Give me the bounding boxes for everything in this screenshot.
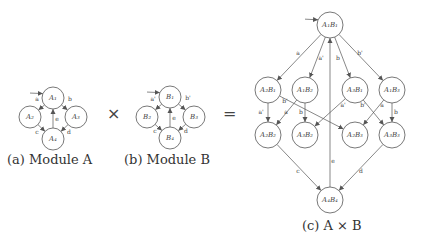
state-node-B1: B₁: [159, 86, 181, 108]
state-label: B₄: [165, 134, 174, 142]
state-node-B4: B₄: [159, 127, 181, 149]
edge-label: b: [299, 108, 303, 115]
edge-label: e: [172, 114, 176, 121]
edge-A2-A4: [38, 125, 45, 132]
edge-label: d: [67, 128, 71, 135]
edge-A1-A3: [61, 105, 67, 110]
initial-state-arrow: [147, 92, 160, 93]
state-node-A2B2: A₂B₂: [255, 122, 281, 148]
state-label: A₁B₁: [321, 21, 338, 29]
edge-label: a': [150, 95, 156, 102]
state-label: A₁: [48, 94, 57, 102]
edge-A1-A2: [38, 105, 44, 110]
state-node-A3B3: A₃B₃: [379, 122, 405, 148]
state-label: A₂B₁: [259, 86, 276, 94]
edge-label: a: [380, 101, 384, 108]
edge-label: a': [340, 101, 346, 108]
edge-B1-B3: [178, 104, 185, 110]
edge-label: b': [282, 97, 288, 104]
edge-label: b: [394, 108, 398, 115]
product-automaton-diagram: A₁A₂A₃A₄B₁B₂B₃B₄A₁B₁A₂B₁A₁B₂A₃B₁A₁B₃A₂B₂…: [0, 0, 427, 240]
edge-label: b': [185, 94, 191, 101]
state-label: A₄: [48, 135, 57, 143]
edge-label: e: [331, 157, 335, 164]
edge-A1B1-A2B1: [277, 34, 321, 80]
state-label: A₃B₂: [296, 131, 313, 139]
state-node-A1: A₁: [42, 87, 64, 109]
state-node-A2B1: A₂B₁: [255, 77, 281, 103]
state-node-A2B3: A₂B₃: [342, 122, 368, 148]
state-label: A₂: [25, 113, 34, 121]
edge-label: d: [359, 167, 363, 174]
state-label: B₁: [165, 93, 174, 101]
state-label: A₁B₂: [296, 86, 313, 94]
state-label: A₃B₃: [383, 131, 400, 139]
caption-module-a: (a) Module A: [7, 152, 92, 167]
edge-label: a: [296, 49, 300, 56]
state-label: B₃: [189, 113, 198, 121]
times-operator: ×: [107, 104, 120, 123]
state-node-A1B1: A₁B₁: [317, 12, 343, 38]
caption-product: (c) A × B: [302, 218, 362, 233]
state-label: A₁B₃: [383, 86, 400, 94]
initial-state-arrow: [30, 93, 43, 94]
state-node-A1B3: A₁B₃: [379, 77, 405, 103]
edge-label: c: [153, 127, 157, 134]
edge-A1B1-A1B3: [339, 34, 383, 80]
edge-label: b: [336, 54, 340, 61]
edge-label: b': [357, 49, 363, 56]
state-node-A3: A₃: [65, 106, 87, 128]
state-node-A3B1: A₃B₁: [342, 77, 368, 103]
equals-operator: =: [223, 104, 236, 123]
state-node-A3B2: A₃B₂: [292, 122, 318, 148]
state-label: A₂B₂: [259, 131, 276, 139]
state-node-A4: A₄: [42, 128, 64, 150]
edge-label: d: [184, 127, 188, 134]
edge-label: e: [55, 115, 59, 122]
edge-label: a': [318, 54, 324, 61]
state-node-A2: A₂: [19, 106, 41, 128]
edge-label: b: [68, 95, 72, 102]
state-node-B3: B₃: [183, 106, 205, 128]
state-node-A4B4: A₄B₄: [317, 187, 343, 213]
state-label: A₃B₁: [346, 86, 363, 94]
state-label: A₂B₃: [346, 131, 363, 139]
initial-state-arrow: [305, 19, 318, 20]
edge-B1-B2: [155, 104, 161, 110]
edge-label: a: [35, 95, 39, 102]
state-node-B2: B₂: [136, 106, 158, 128]
caption-module-b: (b) Module B: [124, 152, 210, 167]
state-label: B₂: [142, 113, 151, 121]
state-label: A₄B₄: [321, 196, 338, 204]
edge-label: a: [284, 108, 288, 115]
edge-label: c: [35, 128, 39, 135]
edge-label: a': [258, 108, 264, 115]
edge-label: b': [360, 101, 366, 108]
state-node-A1B2: A₁B₂: [292, 77, 318, 103]
state-label: A₃: [71, 113, 80, 121]
